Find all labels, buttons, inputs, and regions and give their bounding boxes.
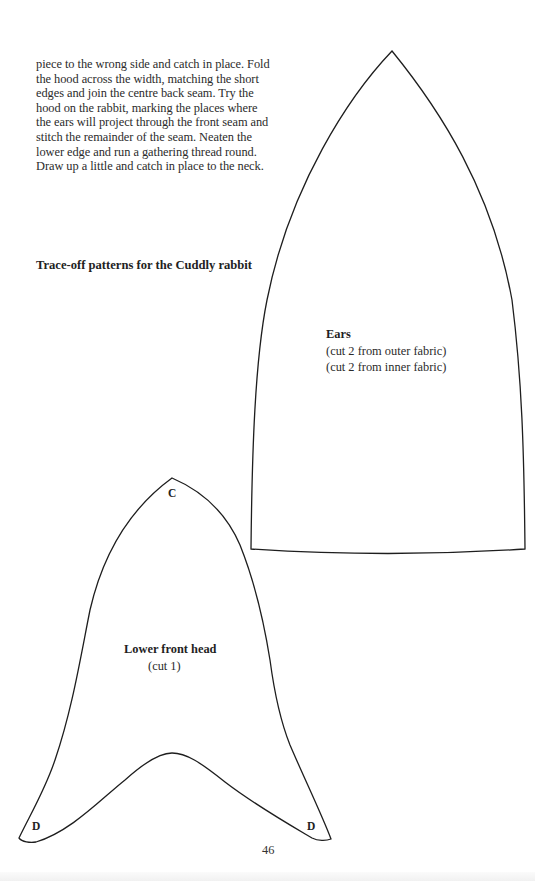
ears-pattern-outline <box>251 51 525 554</box>
page-bottom-edge <box>0 872 535 881</box>
lower-front-head-title: Lower front head <box>124 641 216 657</box>
ears-instruction-inner: (cut 2 from inner fabric) <box>326 359 446 376</box>
point-label-d-left: D <box>32 820 40 832</box>
pattern-outlines <box>0 0 535 881</box>
ears-title: Ears <box>326 326 446 343</box>
ears-pattern-label: Ears (cut 2 from outer fabric) (cut 2 fr… <box>326 326 446 376</box>
ears-instruction-outer: (cut 2 from outer fabric) <box>326 343 446 360</box>
point-label-c: C <box>168 487 176 499</box>
point-label-d-right: D <box>307 820 315 832</box>
page-number: 46 <box>262 843 274 858</box>
lower-front-head-instruction: (cut 1) <box>148 658 181 674</box>
